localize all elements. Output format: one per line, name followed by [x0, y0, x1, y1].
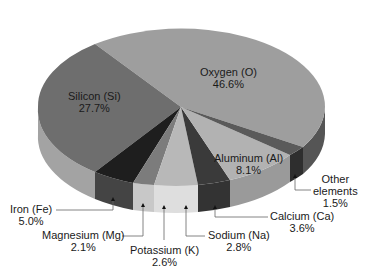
label-name: Oxygen (O)	[200, 66, 257, 78]
label-value: 2.6%	[130, 256, 199, 268]
label-value: 27.7%	[68, 102, 121, 114]
label-value: 3.6%	[270, 222, 334, 234]
slice-side-magnesium	[133, 183, 154, 212]
label-silicon: Silicon (Si) 27.7%	[68, 90, 121, 114]
label-name: Aluminum (Al)	[214, 152, 283, 164]
label-magnesium: Magnesium (Mg) 2.1%	[42, 229, 125, 253]
label-aluminum: Aluminum (Al) 8.1%	[214, 152, 283, 176]
label-other: Other elements 1.5%	[313, 173, 358, 209]
label-name: Other	[313, 173, 358, 185]
label-calcium: Calcium (Ca) 3.6%	[270, 210, 334, 234]
label-name: Calcium (Ca)	[270, 210, 334, 222]
label-value: 2.8%	[208, 241, 270, 253]
label-name: Iron (Fe)	[10, 203, 52, 215]
label-value: 46.6%	[200, 78, 257, 90]
label-name: Silicon (Si)	[68, 90, 121, 102]
label-name: elements	[313, 185, 358, 197]
label-name: Magnesium (Mg)	[42, 229, 125, 241]
label-value: 8.1%	[214, 164, 283, 176]
label-sodium: Sodium (Na) 2.8%	[208, 229, 270, 253]
label-name: Potassium (K)	[130, 244, 199, 256]
label-value: 5.0%	[10, 215, 52, 227]
label-value: 2.1%	[42, 241, 125, 253]
label-oxygen: Oxygen (O) 46.6%	[200, 66, 257, 90]
label-name: Sodium (Na)	[208, 229, 270, 241]
label-potassium: Potassium (K) 2.6%	[130, 244, 199, 268]
label-value: 1.5%	[313, 197, 358, 209]
slice-side-potassium	[154, 185, 198, 213]
label-iron: Iron (Fe) 5.0%	[10, 203, 52, 227]
